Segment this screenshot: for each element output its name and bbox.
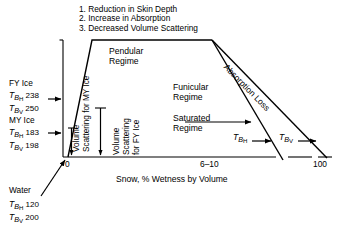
x-tick-100: 100 [313, 159, 327, 169]
legend-block-fy-ice: FY Ice TBH238 TBV250 [9, 79, 39, 115]
fy-ice-scattering-bar [95, 108, 106, 155]
note-item-3: 3. Decreased Volume Scattering [79, 24, 198, 33]
curve-tbh [212, 40, 283, 160]
funicular-regime-label: Funicular Regime [173, 82, 208, 102]
x-tick-0: 0 [65, 159, 70, 169]
scattering-label-fy-ice-line1: Volume [112, 128, 121, 155]
legend-value-my-ice-v: TBV198 [9, 141, 39, 152]
diagram-canvas: 1. Reduction in Skin Depth 2. Increase i… [0, 0, 340, 245]
curve-label-tbh: TBH [233, 133, 247, 144]
scattering-label-fy-ice-line2: Scattering [122, 118, 131, 155]
legend-value-fy-ice-h: TBH238 [9, 91, 39, 102]
scattering-label-fy-ice-line3: for FY Ice [132, 120, 141, 155]
scattering-label-my-ice: Scattering for MY Ice [82, 76, 91, 152]
curve-label-tbv: TBV [279, 133, 293, 144]
notes-list: 1. Reduction in Skin Depth 2. Increase i… [79, 5, 198, 33]
x-axis-title: Snow, % Wetness by Volume [116, 174, 228, 184]
legend-block-water: Water TBH120 TBV200 [9, 186, 39, 224]
pendular-regime-label: Pendular Regime [109, 46, 143, 66]
legend-title-my-ice: MY Ice [9, 116, 39, 125]
legend-title-water: Water [9, 186, 39, 195]
scattering-label-my-ice-line1: Volume [72, 125, 81, 152]
x-tick-6-10: 6–10 [200, 159, 219, 169]
legend-value-fy-ice-v: TBV250 [9, 104, 39, 115]
water-pointer [41, 160, 65, 196]
legend-value-my-ice-h: TBH183 [9, 128, 39, 139]
diagram-vector-layer [0, 0, 340, 245]
legend-title-fy-ice: FY Ice [9, 79, 39, 88]
legend-value-water-v: TBV200 [9, 213, 39, 224]
legend-block-my-ice: MY Ice TBH183 TBV198 [9, 116, 39, 152]
saturated-regime-label: Saturated Regime [173, 113, 210, 133]
curve-tbv [212, 40, 327, 158]
legend-value-water-h: TBH120 [9, 200, 39, 211]
